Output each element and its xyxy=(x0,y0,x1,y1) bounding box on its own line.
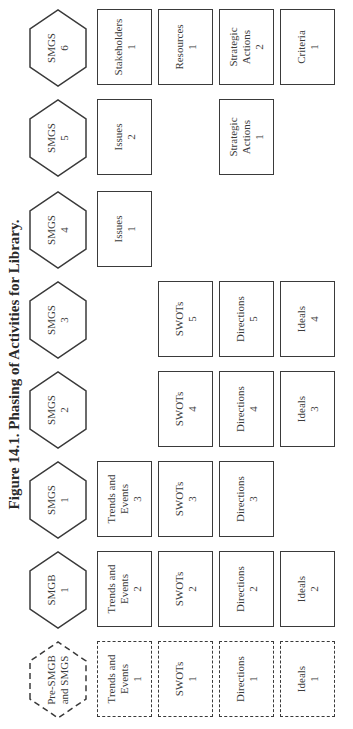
activity-box: StrategicActions1 xyxy=(219,99,274,175)
activity-box: SWOTs1 xyxy=(158,641,213,717)
activity-box: Trends andEvents2 xyxy=(97,551,152,627)
activity-box: Trends andEvents1 xyxy=(97,641,152,717)
phase-hexagon: SMGS1 xyxy=(28,461,88,539)
activity-box: Directions3 xyxy=(219,461,274,537)
activity-box: Ideals3 xyxy=(280,371,335,447)
phase-hexagon: SMGS2 xyxy=(28,371,88,449)
activity-box: Stakeholders1 xyxy=(97,9,152,85)
activity-box: Ideals4 xyxy=(280,281,335,357)
phase-hexagon: SMGS4 xyxy=(28,191,88,269)
phase-label: SMGS3 xyxy=(28,281,88,359)
phase-hexagon: SMGS6 xyxy=(28,9,88,87)
phase-label: SMGS1 xyxy=(28,461,88,539)
phase-hexagon: SMGB1 xyxy=(28,551,88,629)
phasing-diagram: Figure 14.1. Phasing of Activities for L… xyxy=(0,0,353,729)
activity-box: StrategicActions2 xyxy=(219,9,274,85)
activity-box: Directions1 xyxy=(219,641,274,717)
phase-hexagon: Pre-SMGBand SMGS xyxy=(28,641,88,719)
phase-column: SMGS4Issues1 xyxy=(0,189,353,271)
phase-label: SMGB1 xyxy=(28,551,88,629)
activity-box: Directions4 xyxy=(219,371,274,447)
phase-column: SMGB1Trends andEvents2SWOTs2Directions2I… xyxy=(0,549,353,631)
phase-column: Pre-SMGBand SMGSTrends andEvents1SWOTs1D… xyxy=(0,639,353,721)
activity-box: SWOTs3 xyxy=(158,461,213,537)
activity-box: Issues2 xyxy=(97,99,152,175)
phase-label: SMGS4 xyxy=(28,191,88,269)
phase-column: SMGS5Issues2StrategicActions1 xyxy=(0,97,353,179)
activity-box: SWOTs5 xyxy=(158,281,213,357)
phase-column: SMGS1Trends andEvents3SWOTs3Directions3 xyxy=(0,459,353,541)
activity-box: Issues1 xyxy=(97,191,152,267)
phase-label: SMGS5 xyxy=(28,99,88,177)
activity-box: Resources1 xyxy=(158,9,213,85)
phase-column: SMGS2SWOTs4Directions4Ideals3 xyxy=(0,369,353,451)
activity-box: Directions5 xyxy=(219,281,274,357)
phase-label: Pre-SMGBand SMGS xyxy=(28,641,88,719)
phase-column: SMGS3SWOTs5Directions5Ideals4 xyxy=(0,279,353,361)
phase-hexagon: SMGS5 xyxy=(28,99,88,177)
activity-box: Directions2 xyxy=(219,551,274,627)
activity-box: SWOTs4 xyxy=(158,371,213,447)
activity-box: Ideals2 xyxy=(280,551,335,627)
activity-box: Criteria1 xyxy=(280,9,335,85)
activity-box: Ideals1 xyxy=(280,641,335,717)
phase-label: SMGS6 xyxy=(28,9,88,87)
phase-hexagon: SMGS3 xyxy=(28,281,88,359)
activity-box: SWOTs2 xyxy=(158,551,213,627)
phase-column: SMGS6Stakeholders1Resources1StrategicAct… xyxy=(0,7,353,89)
phase-label: SMGS2 xyxy=(28,371,88,449)
activity-box: Trends andEvents3 xyxy=(97,461,152,537)
